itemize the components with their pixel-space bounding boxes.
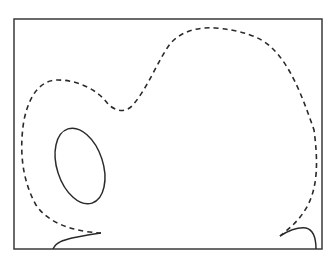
solid-curve-bottom-right: [280, 228, 316, 249]
solid-ellipse: [46, 122, 114, 210]
dashed-boundary-curve: [22, 28, 317, 236]
diagram-canvas: [0, 0, 336, 262]
solid-curve-bottom-left: [53, 233, 101, 249]
